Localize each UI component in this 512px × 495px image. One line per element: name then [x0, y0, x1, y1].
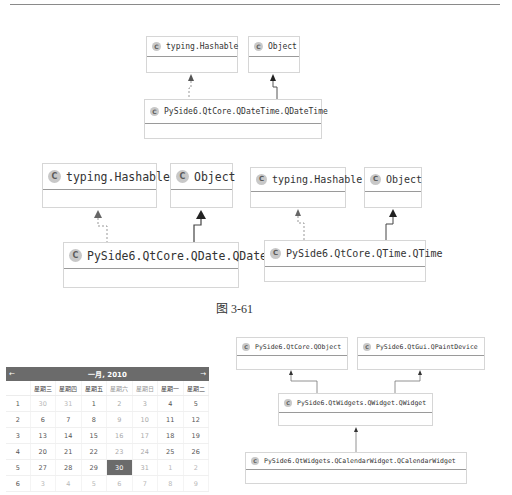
next-month-arrow-icon[interactable]: → [200, 370, 206, 378]
day-cell[interactable]: 10 [132, 412, 158, 428]
day-cell[interactable]: 30 [30, 396, 56, 412]
class-box-object: CObject [248, 36, 300, 73]
weekday-label: 星期日 [132, 381, 158, 396]
calendar-nav-bar: ← 一月, 2010 → [6, 367, 209, 381]
week-row: 3 13 14 15 16 17 18 19 [6, 428, 209, 444]
class-name: PySide6.QtWidgets.QWidget.QWidget [297, 399, 426, 407]
day-cell[interactable]: 26 [183, 444, 209, 460]
class-box-qtime: CPySide6.QtCore.QTime.QTime [264, 240, 426, 282]
day-cell[interactable]: 8 [158, 476, 184, 492]
day-cell[interactable]: 29 [81, 460, 107, 476]
day-cell[interactable]: 6 [30, 412, 56, 428]
week-row: 2 6 7 8 9 10 11 12 [6, 412, 209, 428]
day-cell[interactable]: 3 [132, 396, 158, 412]
year-label[interactable]: 2010 [107, 371, 126, 379]
class-box-object: CObject [364, 167, 422, 208]
day-cell[interactable]: 6 [107, 476, 133, 492]
day-cell[interactable]: 12 [183, 412, 209, 428]
class-name: PySide6.QtCore.QTime.QTime [286, 248, 443, 259]
day-cell[interactable]: 2 [183, 460, 209, 476]
week-number: 2 [6, 412, 30, 428]
day-cell-selected[interactable]: 30 [107, 460, 133, 476]
week-number: 1 [6, 396, 30, 412]
weekday-label: 星期一 [158, 381, 184, 396]
day-cell[interactable]: 4 [158, 396, 184, 412]
day-cell[interactable]: 2 [107, 396, 133, 412]
class-icon: C [284, 399, 292, 407]
week-number: 6 [6, 476, 30, 492]
class-name: typing.Hashable [272, 174, 362, 185]
week-row: 1 30 31 1 2 3 4 5 [6, 396, 209, 412]
day-cell[interactable]: 7 [132, 476, 158, 492]
day-cell[interactable]: 3 [30, 476, 56, 492]
day-cell[interactable]: 21 [56, 444, 82, 460]
class-box-object: CObject [170, 163, 233, 208]
class-box-qpaintdevice: CPySide6.QtGui.QPaintDevice [357, 337, 485, 370]
day-cell[interactable]: 9 [183, 476, 209, 492]
month-year-label[interactable]: 一月, 2010 [88, 369, 127, 379]
day-cell[interactable]: 23 [107, 444, 133, 460]
class-name: typing.Hashable [166, 42, 238, 51]
class-icon: C [256, 174, 267, 185]
day-cell[interactable]: 19 [183, 428, 209, 444]
class-name: Object [386, 174, 422, 185]
day-cell[interactable]: 8 [81, 412, 107, 428]
day-cell[interactable]: 18 [158, 428, 184, 444]
day-cell[interactable]: 31 [132, 460, 158, 476]
day-cell[interactable]: 13 [30, 428, 56, 444]
month-label[interactable]: 一月, [88, 371, 105, 379]
day-cell[interactable]: 7 [56, 412, 82, 428]
class-icon: C [242, 343, 250, 351]
weekday-label: 星期三 [30, 381, 56, 396]
day-cell[interactable]: 1 [158, 460, 184, 476]
class-box-qwidget: CPySide6.QtWidgets.QWidget.QWidget [278, 393, 433, 426]
day-cell[interactable]: 24 [132, 444, 158, 460]
class-icon: C [176, 170, 189, 183]
class-box-typing-hashable: Ctyping.Hashable [250, 167, 346, 208]
day-cell[interactable]: 16 [107, 428, 133, 444]
calendar-grid: 星期三 星期四 星期五 星期六 星期日 星期一 星期二 1 30 31 1 2 … [6, 381, 209, 492]
class-icon: C [270, 248, 281, 259]
day-cell[interactable]: 11 [158, 412, 184, 428]
class-icon: C [69, 249, 82, 262]
calendar-widget: ← 一月, 2010 → 星期三 星期四 星期五 星期六 星期日 星期一 星期二… [6, 367, 209, 492]
weekday-label: 星期四 [56, 381, 82, 396]
week-row: 6 3 4 5 6 7 8 9 [6, 476, 209, 492]
day-cell[interactable]: 15 [81, 428, 107, 444]
class-name: Object [268, 42, 297, 51]
day-cell[interactable]: 17 [132, 428, 158, 444]
day-cell[interactable]: 20 [30, 444, 56, 460]
day-cell[interactable]: 28 [56, 460, 82, 476]
day-cell[interactable]: 9 [107, 412, 133, 428]
day-cell[interactable]: 1 [81, 396, 107, 412]
class-box-qobject: CPySide6.QtCore.QObject [236, 337, 348, 370]
week-number-header [6, 381, 30, 396]
day-cell[interactable]: 4 [56, 476, 82, 492]
day-cell[interactable]: 27 [30, 460, 56, 476]
week-number: 3 [6, 428, 30, 444]
class-icon: C [152, 42, 161, 51]
week-number: 4 [6, 444, 30, 460]
class-name: PySide6.QtCore.QObject [255, 343, 341, 351]
week-row: 5 27 28 29 30 31 1 2 [6, 460, 209, 476]
class-name: PySide6.QtCore.QDate.QDate [87, 249, 267, 263]
day-cell[interactable]: 31 [56, 396, 82, 412]
day-cell[interactable]: 22 [81, 444, 107, 460]
class-name: PySide6.QtCore.QDateTime.QDateTime [164, 107, 328, 116]
prev-month-arrow-icon[interactable]: ← [9, 370, 15, 378]
class-box-qdate: CPySide6.QtCore.QDate.QDate [63, 242, 239, 288]
class-box-qdatetime: CPySide6.QtCore.QDateTime.QDateTime [144, 99, 322, 139]
day-cell[interactable]: 14 [56, 428, 82, 444]
day-cell[interactable]: 5 [183, 396, 209, 412]
class-box-typing-hashable: Ctyping.Hashable [146, 36, 238, 73]
week-row: 4 20 21 22 23 24 25 26 [6, 444, 209, 460]
class-name: PySide6.QtGui.QPaintDevice [376, 343, 478, 351]
day-cell[interactable]: 25 [158, 444, 184, 460]
figure-caption: 图 3-61 [216, 299, 253, 317]
day-cell[interactable]: 5 [81, 476, 107, 492]
class-box-qcalendarwidget: CPySide6.QtWidgets.QCalendarWidget.QCale… [245, 452, 467, 484]
weekday-header-row: 星期三 星期四 星期五 星期六 星期日 星期一 星期二 [6, 381, 209, 396]
class-icon: C [251, 457, 259, 465]
class-name: typing.Hashable [66, 170, 170, 184]
class-icon: C [370, 174, 381, 185]
